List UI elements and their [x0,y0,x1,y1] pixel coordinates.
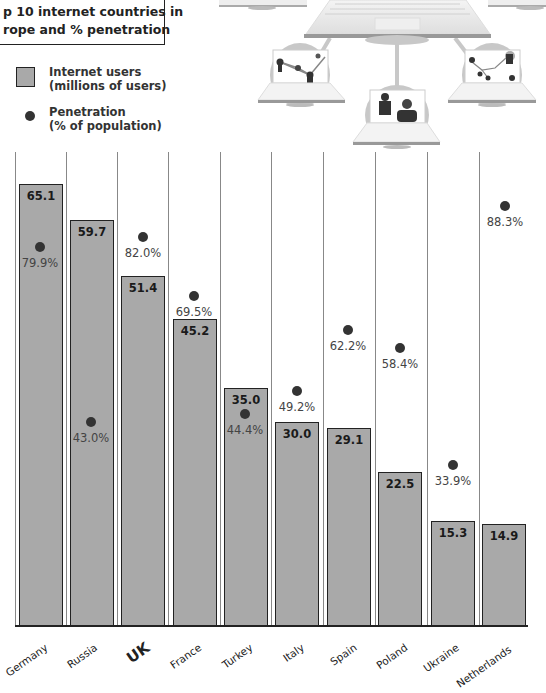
x-axis-label-uk: UK [123,639,153,667]
x-axis-label-turkey: Turkey [220,641,255,670]
penetration-dot-ukraine [448,460,458,470]
penetration-label-germany: 79.9% [10,256,70,270]
penetration-dot-russia [86,417,96,427]
penetration-label-france: 69.5% [164,305,224,319]
legend-bar-swatch-icon [16,67,35,87]
column-divider [220,152,221,625]
bar-value-label: 65.1 [20,189,62,203]
bar-value-label: 59.7 [71,225,113,239]
column-divider [15,152,16,625]
column-divider [427,152,428,625]
penetration-dot-germany [35,242,45,252]
penetration-dot-spain [343,325,353,335]
laptop-icon [219,0,307,10]
bar-spain: 29.1 [327,428,371,625]
legend-dot-icon [25,111,35,121]
laptop-icon [304,0,491,45]
x-axis-label-russia: Russia [65,641,100,670]
laptop-icon [448,43,536,107]
legend-dots-label: Penetration (% of population) [49,105,162,133]
chart-title-line-2: rope and % penetration [3,21,164,39]
penetration-label-spain: 62.2% [318,339,378,353]
chart-title-box: p 10 internet countries in rope and % pe… [0,0,165,45]
penetration-label-uk: 82.0% [113,246,173,260]
x-axis-label-spain: Spain [328,641,359,668]
bar-value-label: 29.1 [328,433,370,447]
column-divider [375,152,376,625]
laptop-icon [488,0,546,10]
legend-dots-line-1: Penetration [49,105,162,119]
penetration-label-turkey: 44.4% [215,423,275,437]
penetration-label-poland: 58.4% [370,357,430,371]
x-axis-label-netherlands: Netherlands [454,643,513,690]
x-axis-label-france: France [168,641,203,671]
laptop-icon [258,43,345,107]
x-axis-label-ukraine: Ukraine [421,641,461,674]
bar-france: 45.2 [173,319,217,625]
penetration-label-netherlands: 88.3% [475,215,535,229]
bar-value-label: 15.3 [432,526,474,540]
legend-bars-line-2: (millions of users) [49,79,166,93]
bar-value-label: 14.9 [483,529,525,543]
column-divider [168,152,169,625]
penetration-dot-france [189,291,199,301]
column-divider [117,152,118,625]
x-axis-label-poland: Poland [374,641,410,671]
bar-ukraine: 15.3 [431,521,475,625]
legend-bars-label: Internet users (millions of users) [49,65,166,93]
penetration-dot-turkey [240,409,250,419]
chart-title-line-1: p 10 internet countries in [3,3,164,21]
penetration-dot-uk [138,232,148,242]
column-divider [271,152,272,625]
penetration-label-italy: 49.2% [267,400,327,414]
penetration-dot-netherlands [500,201,510,211]
x-axis-label-germany: Germany [3,641,49,679]
laptop-icon [353,85,440,149]
bar-netherlands: 14.9 [482,524,526,625]
penetration-dot-poland [395,343,405,353]
bar-value-label: 22.5 [379,477,421,491]
bar-value-label: 51.4 [122,281,164,295]
penetration-label-russia: 43.0% [61,431,121,445]
penetration-label-ukraine: 33.9% [423,474,483,488]
bar-value-label: 45.2 [174,324,216,338]
bar-value-label: 30.0 [276,427,318,441]
legend-dots-line-2: (% of population) [49,119,162,133]
bar-italy: 30.0 [275,422,319,625]
penetration-dot-italy [292,386,302,396]
bar-uk: 51.4 [121,276,165,625]
bar-poland: 22.5 [378,472,422,625]
column-divider [66,152,67,625]
bar-value-label: 35.0 [225,393,267,407]
column-divider [323,152,324,625]
legend-bars-line-1: Internet users [49,65,166,79]
x-axis-baseline [15,625,528,627]
x-axis-label-italy: Italy [281,641,307,664]
